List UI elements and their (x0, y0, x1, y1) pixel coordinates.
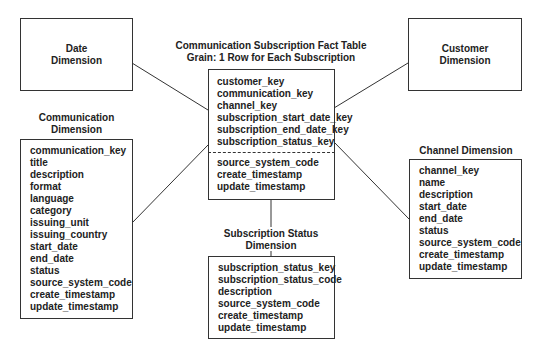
field: communication_key (217, 88, 326, 100)
fact-table-box: customer_key communication_key channel_k… (208, 69, 335, 200)
fact-table-title: Communication Subscription Fact Table Gr… (170, 40, 372, 64)
field: source_system_code (419, 237, 512, 249)
customer-dimension-title-line1: Customer (442, 43, 489, 55)
communication-dimension-fields: communication_key title description form… (30, 145, 123, 313)
communication-dimension-title-line2: Dimension (20, 124, 133, 136)
subscription-status-dimension-box: subscription_status_key subscription_sta… (208, 256, 335, 339)
subscription-status-dimension-title: Subscription Status Dimension (200, 228, 342, 252)
fact-table-title-line1: Communication Subscription Fact Table (170, 40, 372, 52)
subscription-status-fields: subscription_status_key subscription_sta… (218, 262, 325, 334)
field: subscription_start_date_key (217, 112, 326, 124)
field: update_timestamp (217, 181, 326, 193)
subscription-status-title-line2: Dimension (200, 240, 342, 252)
channel-dimension-box: channel_key name description start_date … (409, 159, 522, 279)
fact-table-keys: customer_key communication_key channel_k… (217, 76, 326, 148)
date-dimension-title-line2: Dimension (51, 55, 102, 67)
channel-dimension-title-text: Channel Dimension (400, 145, 532, 157)
field: end_date (30, 253, 123, 265)
field: end_date (419, 213, 512, 225)
field: channel_key (419, 165, 512, 177)
field: status (30, 265, 123, 277)
field: start_date (419, 201, 512, 213)
field: language (30, 193, 123, 205)
field: create_timestamp (217, 169, 326, 181)
channel-dimension-title: Channel Dimension (400, 145, 532, 157)
field: update_timestamp (218, 322, 325, 334)
subscription-status-title-line1: Subscription Status (200, 228, 342, 240)
field: name (419, 177, 512, 189)
field: start_date (30, 241, 123, 253)
connector-comm-to-fact (132, 145, 208, 223)
field: status (419, 225, 512, 237)
field: title (30, 157, 123, 169)
field: subscription_end_date_key (217, 124, 326, 136)
field: format (30, 181, 123, 193)
field: issuing_unit (30, 217, 123, 229)
field: source_system_code (217, 157, 326, 169)
fact-table-grain: Grain: 1 Row for Each Subscription (170, 52, 372, 64)
field: communication_key (30, 145, 123, 157)
dashed-divider (208, 152, 335, 153)
field: create_timestamp (419, 249, 512, 261)
customer-dimension-title-line2: Dimension (439, 55, 490, 67)
field: subscription_status_key (218, 262, 325, 274)
communication-dimension-box: communication_key title description form… (20, 139, 133, 319)
customer-dimension-box: Customer Dimension (408, 18, 522, 91)
connector-date-to-fact (132, 63, 208, 110)
connector-customer-to-fact (334, 63, 408, 108)
field: update_timestamp (419, 261, 512, 273)
field: subscription_status_code (218, 274, 325, 286)
field: description (419, 189, 512, 201)
field: channel_key (217, 100, 326, 112)
field: description (30, 169, 123, 181)
field: create_timestamp (218, 310, 325, 322)
field: update_timestamp (30, 301, 123, 313)
connector-channel-to-fact (334, 142, 409, 219)
fact-table-attributes: source_system_code create_timestamp upda… (217, 157, 326, 193)
field: description (218, 286, 325, 298)
communication-dimension-title: Communication Dimension (20, 112, 133, 136)
field: source_system_code (30, 277, 123, 289)
field: customer_key (217, 76, 326, 88)
date-dimension-title-line1: Date (66, 43, 88, 55)
date-dimension-box: Date Dimension (20, 18, 133, 91)
field: source_system_code (218, 298, 325, 310)
field: category (30, 205, 123, 217)
field: issuing_country (30, 229, 123, 241)
channel-dimension-fields: channel_key name description start_date … (419, 165, 512, 273)
field: subscription_status_key (217, 136, 326, 148)
communication-dimension-title-line1: Communication (20, 112, 133, 124)
field: create_timestamp (30, 289, 123, 301)
